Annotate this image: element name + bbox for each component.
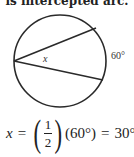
- left-paren: (: [34, 114, 42, 152]
- formula-result: 30°: [114, 125, 134, 142]
- formula-variable: x: [6, 125, 13, 142]
- formula-equals-2: =: [101, 125, 109, 142]
- formula-equals: =: [18, 125, 26, 142]
- arc-label: 60°: [111, 50, 125, 61]
- right-paren: ): [55, 114, 63, 152]
- upper-chord: [14, 28, 96, 61]
- lower-chord: [14, 61, 103, 80]
- fraction-numerator: 1: [44, 118, 53, 134]
- fraction-denominator: 2: [45, 134, 52, 149]
- fraction: 1 2: [44, 118, 53, 149]
- angle-label: x: [42, 53, 48, 64]
- formula-arc-value: (60°): [65, 125, 96, 142]
- formula: x = ( 1 2 ) (60°) = 30°: [6, 112, 134, 154]
